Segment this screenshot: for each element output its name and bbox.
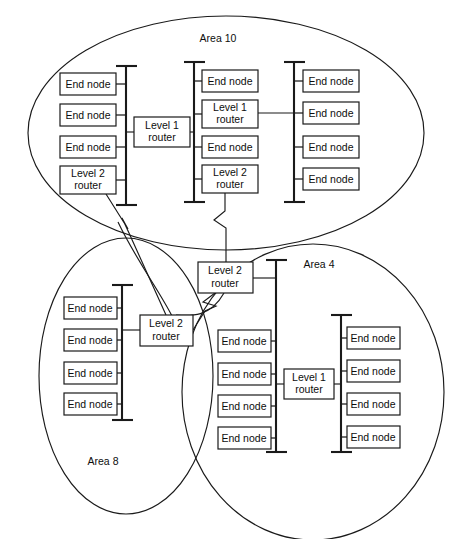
area-label-area-10: Area 10 [200, 32, 237, 44]
node-end-node[interactable]: End node [64, 297, 117, 319]
node-end-node[interactable]: End node [60, 73, 116, 95]
node-end-node[interactable]: End node [64, 329, 117, 351]
node-level2-router-backbone[interactable]: Level 2 router [198, 262, 253, 293]
node-boxes: End node End node End node Level 2 route… [60, 70, 400, 449]
node-label-line1: Level 1 [213, 101, 247, 113]
node-label: End node [309, 173, 354, 185]
node-level1-router[interactable]: Level 1 router [134, 117, 190, 147]
node-label: End node [68, 334, 113, 346]
node-label: End node [351, 332, 396, 344]
node-end-node[interactable]: End node [218, 395, 271, 417]
node-label-line2: router [211, 277, 239, 289]
node-end-node[interactable]: End node [303, 102, 359, 124]
node-label-line1: Level 1 [145, 119, 179, 131]
node-end-node[interactable]: End node [60, 136, 116, 158]
node-end-node[interactable]: End node [347, 360, 400, 382]
node-label: End node [309, 141, 354, 153]
node-end-node[interactable]: End node [218, 363, 271, 385]
node-label: End node [68, 367, 113, 379]
node-label: End node [68, 398, 113, 410]
node-end-node[interactable]: End node [303, 136, 359, 158]
node-level1-router[interactable]: Level 1 router [284, 369, 334, 399]
node-label: End node [68, 302, 113, 314]
area-boundary-area-10 [28, 16, 424, 250]
link-a10-m-r2-to-backbone [214, 193, 226, 262]
node-end-node[interactable]: End node [202, 70, 258, 92]
node-label-line1: Level 2 [208, 264, 242, 276]
node-level2-router[interactable]: Level 2 router [202, 165, 258, 193]
node-label-line1: Level 2 [149, 317, 183, 329]
node-end-node[interactable]: End node [303, 70, 359, 92]
node-end-node[interactable]: End node [347, 393, 400, 415]
node-label-line1: Level 1 [292, 371, 326, 383]
node-level1-router[interactable]: Level 1 router [202, 100, 258, 128]
node-end-node[interactable]: End node [60, 104, 116, 126]
node-label-line2: router [295, 383, 323, 395]
node-label: End node [351, 365, 396, 377]
node-end-node[interactable]: End node [347, 327, 400, 349]
node-level2-router[interactable]: Level 2 router [140, 315, 193, 346]
node-label-line2: router [216, 178, 244, 190]
node-level2-router[interactable]: Level 2 router [60, 166, 116, 194]
node-label-line1: Level 2 [213, 166, 247, 178]
node-label: End node [222, 400, 267, 412]
node-label-line2: router [74, 179, 102, 191]
area-label-area-8: Area 8 [88, 455, 119, 467]
node-end-node[interactable]: End node [347, 426, 400, 448]
node-end-node[interactable]: End node [218, 330, 271, 352]
node-label: End node [351, 398, 396, 410]
node-label: End node [222, 432, 267, 444]
node-end-node[interactable]: End node [202, 136, 258, 158]
node-label-line2: router [152, 330, 180, 342]
area-label-area-4: Area 4 [304, 258, 335, 270]
node-label-line2: router [216, 113, 244, 125]
node-end-node[interactable]: End node [218, 427, 271, 449]
node-label: End node [222, 335, 267, 347]
node-label: End node [309, 107, 354, 119]
node-end-node[interactable]: End node [64, 393, 117, 415]
node-label-line1: Level 2 [71, 167, 105, 179]
bus-area10-right [284, 62, 305, 202]
node-end-node[interactable]: End node [303, 168, 359, 190]
node-label: End node [66, 109, 111, 121]
node-label: End node [66, 78, 111, 90]
network-topology-svg: Area 10 Area 8 Area 4 [0, 0, 452, 539]
node-label-line2: router [148, 131, 176, 143]
node-label: End node [66, 141, 111, 153]
bus-area4-left [266, 260, 287, 452]
node-end-node[interactable]: End node [64, 362, 117, 384]
node-label: End node [309, 75, 354, 87]
network-diagram-canvas: Area 10 Area 8 Area 4 [0, 0, 452, 539]
node-label: End node [222, 368, 267, 380]
node-label: End node [208, 141, 253, 153]
node-label: End node [351, 431, 396, 443]
node-label: End node [208, 75, 253, 87]
